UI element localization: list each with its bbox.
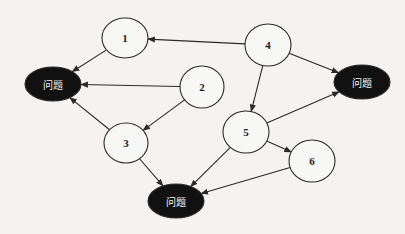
node-label: 2 [199, 81, 205, 93]
edge-n2-to-pL [81, 85, 180, 87]
edge-n5-to-pB [191, 147, 231, 186]
edge-n3-to-pL [70, 98, 110, 130]
edge-n3-to-pB [140, 159, 163, 186]
diagram-canvas: 123456问题问题问题 [0, 0, 405, 234]
node-label: 1 [122, 32, 128, 44]
nodes-layer [25, 18, 390, 218]
node-label: 4 [265, 39, 271, 51]
node-label: 5 [243, 126, 249, 138]
edge-n1-to-pL [72, 50, 106, 72]
edge-n4-to-n5 [251, 65, 263, 111]
problem-node-label: 问题 [352, 75, 372, 90]
edge-n4-to-pR [289, 53, 338, 72]
node-label: 6 [309, 155, 315, 167]
edge-n4-to-n1 [148, 39, 245, 44]
edge-n5-to-pR [267, 92, 339, 123]
graph-svg [0, 0, 405, 234]
problem-node-label: 问题 [166, 194, 186, 209]
edge-n6-to-pB [201, 167, 290, 193]
edge-n5-to-n6 [267, 141, 292, 152]
edge-n2-to-n3 [143, 100, 184, 131]
problem-node-label: 问题 [43, 77, 63, 92]
node-label: 3 [123, 137, 129, 149]
